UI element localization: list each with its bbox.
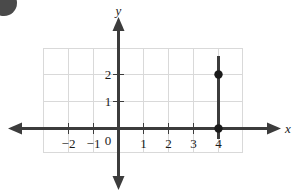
x-tick-label-one: 1 (140, 136, 147, 151)
x-tick-label-three: 3 (190, 136, 197, 151)
x-axis-arrow-left (8, 123, 22, 135)
x-axis-label: x (284, 121, 291, 136)
x-tick-label-neg2: −2 (62, 136, 76, 151)
x-tick-label-two: 2 (165, 136, 172, 151)
y-axis-label: y (114, 3, 122, 18)
point-4-0 (214, 124, 222, 132)
y-axis (113, 17, 125, 190)
point-4-2 (214, 70, 222, 78)
coordinate-plane-graph: −2 −1 0 1 2 3 4 2 1 y x (0, 0, 295, 196)
x-axis-arrow-right (267, 123, 281, 135)
x-tick-label-four: 4 (215, 136, 222, 151)
y-axis-arrow-up (113, 17, 125, 31)
x-axis (8, 123, 281, 135)
y-tick-label-one: 1 (105, 94, 112, 109)
y-axis-arrow-down (113, 176, 125, 190)
x-tick-label-neg1: −1 (87, 136, 101, 151)
y-tick-label-two: 2 (105, 67, 112, 82)
chart-canvas: −2 −1 0 1 2 3 4 2 1 y x (0, 0, 295, 196)
x-tick-label-zero: 0 (105, 133, 112, 148)
